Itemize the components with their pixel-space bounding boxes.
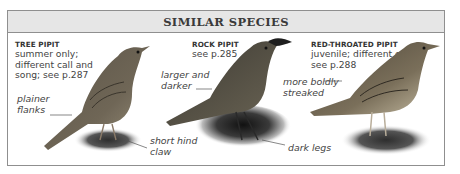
red-throated-pipit-illustration: [310, 42, 440, 136]
bird-illustrations: [0, 0, 460, 174]
grass-tuft-tree-pipit: [74, 128, 142, 152]
